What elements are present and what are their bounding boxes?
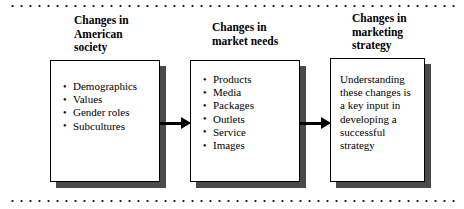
arrow-shaft [160, 122, 182, 125]
list-item: Subcultures [63, 120, 159, 133]
stage-header-marketing-strategy: Changes in marketing strategy [352, 12, 442, 53]
stage-bullet-list-market-needs: Products Media Packages Outlets Service … [191, 61, 299, 152]
arrow-shaft [300, 122, 322, 125]
list-item: Demographics [63, 80, 159, 93]
list-item: Media [203, 86, 299, 99]
list-item: Outlets [203, 113, 299, 126]
list-item: Gender roles [63, 106, 159, 119]
list-item: Images [203, 139, 299, 152]
list-item: Products [203, 73, 299, 86]
stage-paragraph-marketing-strategy: Understanding these changes is a key inp… [331, 59, 424, 152]
stage-box-market-needs: Products Media Packages Outlets Service … [190, 60, 300, 182]
flow-diagram-canvas: Changes in American society Demographics… [0, 0, 464, 209]
stage-header-market-needs: Changes in market needs [212, 21, 312, 48]
arrow-society-to-market-icon [160, 117, 191, 129]
arrow-head [181, 117, 191, 129]
arrow-head [321, 117, 331, 129]
stage-bullet-list-american-society: Demographics Values Gender roles Subcult… [51, 61, 159, 133]
dotted-rule-top [8, 5, 456, 7]
arrow-market-to-strategy-icon [300, 117, 331, 129]
list-item: Packages [203, 99, 299, 112]
list-item: Values [63, 93, 159, 106]
stage-header-american-society: Changes in American society [74, 14, 174, 55]
list-item: Service [203, 126, 299, 139]
stage-box-american-society: Demographics Values Gender roles Subcult… [50, 60, 160, 182]
dotted-rule-bottom [8, 200, 456, 202]
stage-box-marketing-strategy: Understanding these changes is a key inp… [330, 58, 425, 182]
